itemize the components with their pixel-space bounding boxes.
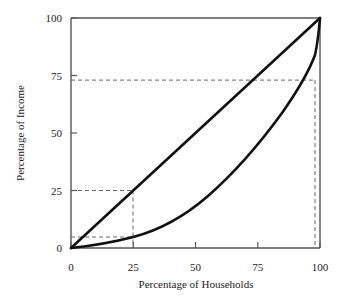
x-tick-label-100: 100 [312,261,329,273]
y-axis-title: Percentage of Income [14,85,26,181]
x-tick-label-0: 0 [68,261,74,273]
x-axis-title: Percentage of Households [139,278,254,290]
y-tick-label-75: 75 [51,70,63,82]
x-tick-label-75: 75 [252,261,264,273]
y-tick-label-0: 0 [57,242,63,254]
x-tick-label-25: 25 [128,261,140,273]
y-tick-label-25: 25 [51,185,63,197]
x-tick-label-50: 50 [190,261,202,273]
y-tick-label-100: 100 [46,12,63,24]
y-tick-label-50: 50 [51,127,63,139]
lorenz-curve-figure: 100 75 50 25 0 0 25 50 75 100 Percentage… [0,0,340,302]
chart-svg: 100 75 50 25 0 0 25 50 75 100 Percentage… [0,0,340,302]
